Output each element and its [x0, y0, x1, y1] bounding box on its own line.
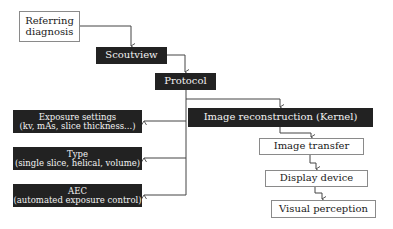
node-label-line2: (kv, mAs, slice thickness...): [19, 122, 135, 131]
node-label: Visual perception: [279, 204, 368, 215]
node-label: Scoutview: [105, 50, 157, 61]
node-scoutview: Scoutview: [96, 47, 167, 64]
node-type: Type (single slice, helical, volume): [13, 147, 142, 170]
node-label-line2: (automated exposure control): [13, 196, 141, 205]
arrow-display-to-perception: [315, 187, 322, 199]
node-label-line1: Referring: [25, 16, 74, 27]
node-label: Image reconstruction (Kernel): [204, 112, 358, 123]
node-label-line2: (single slice, helical, volume): [15, 159, 140, 168]
node-referring-diagnosis: Referring diagnosis: [19, 11, 80, 42]
node-exposure-settings: Exposure settings (kv, mAs, slice thickn…: [13, 110, 142, 133]
node-label: Image transfer: [274, 141, 350, 152]
node-protocol: Protocol: [155, 73, 216, 90]
node-image-reconstruction: Image reconstruction (Kernel): [188, 108, 373, 127]
arrow-protocol-to-reconstruction: [186, 99, 280, 107]
node-aec: AEC (automated exposure control): [13, 184, 142, 207]
node-visual-perception: Visual perception: [271, 200, 376, 218]
node-display-device: Display device: [265, 170, 368, 187]
arrow-referring-to-scoutview: [79, 26, 131, 46]
node-label: Protocol: [164, 76, 206, 87]
arrow-reconstruction-to-transfer: [280, 127, 311, 137]
node-label-line2: diagnosis: [26, 27, 74, 38]
arrow-scoutview-to-protocol: [167, 55, 185, 72]
node-label: Display device: [280, 173, 353, 184]
node-image-transfer: Image transfer: [259, 138, 364, 155]
arrow-transfer-to-display: [310, 155, 316, 169]
